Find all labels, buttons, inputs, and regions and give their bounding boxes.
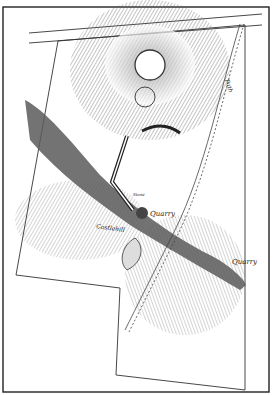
hillfort-map: Quarry Quarry Castlehill Stone Path — [0, 0, 274, 395]
quarry-label-upper: Quarry — [150, 210, 176, 218]
quarry-label-lower: Quarry — [232, 258, 258, 266]
quarry-pit — [136, 207, 148, 219]
stone-label: Stone — [133, 192, 145, 197]
summit-enclosure — [135, 50, 165, 80]
